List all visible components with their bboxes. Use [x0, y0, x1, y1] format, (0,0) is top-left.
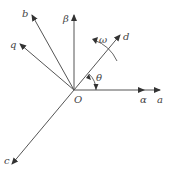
- label-c: c: [4, 155, 10, 166]
- label-beta: β: [62, 13, 69, 24]
- axis-b: [32, 15, 74, 90]
- alpha-arrowhead-icon: [138, 87, 145, 93]
- reference-frame-diagram: b β q d ω θ O α a c: [0, 0, 174, 181]
- axis-c: [12, 90, 74, 164]
- theta-arrowhead-icon: [94, 84, 99, 90]
- label-omega: ω: [99, 34, 107, 45]
- label-a: a: [157, 94, 163, 105]
- axis-a: [74, 87, 160, 93]
- theta-angle-arc: [89, 74, 96, 90]
- label-q: q: [10, 39, 16, 50]
- label-alpha: α: [140, 94, 147, 105]
- omega-arrowhead-icon: [92, 37, 98, 44]
- label-d: d: [123, 31, 129, 42]
- axis-q: [20, 44, 74, 90]
- label-origin: O: [74, 94, 82, 105]
- label-b: b: [22, 8, 28, 19]
- label-theta: θ: [96, 72, 102, 83]
